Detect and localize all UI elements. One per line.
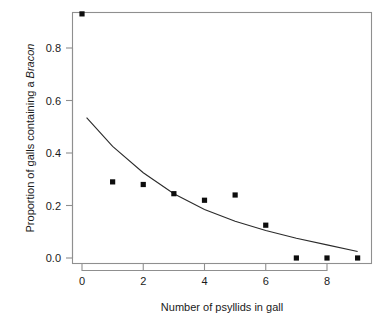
x-tick-label: 6 xyxy=(263,275,269,287)
data-point xyxy=(324,255,329,260)
y-tick-label: 0.2 xyxy=(46,200,61,212)
y-tick-label: 0.0 xyxy=(46,252,61,264)
data-point xyxy=(110,179,115,184)
y-tick-label: 0.8 xyxy=(46,42,61,54)
x-axis-title: Number of psyllids in gall xyxy=(161,301,283,313)
y-tick-label: 0.6 xyxy=(46,95,61,107)
x-tick-label: 2 xyxy=(140,275,146,287)
x-tick-label: 4 xyxy=(201,275,207,287)
y-axis-title-plain: Proportion of galls containing a xyxy=(24,78,36,232)
y-axis-title-italic-genus: Bracon xyxy=(24,44,36,79)
y-axis-title: Proportion of galls containing a Bracon xyxy=(24,44,36,233)
data-point xyxy=(141,182,146,187)
data-point xyxy=(355,255,360,260)
data-point xyxy=(294,255,299,260)
data-point xyxy=(233,192,238,197)
data-point xyxy=(171,191,176,196)
x-tick-label: 8 xyxy=(324,275,330,287)
x-tick-label: 0 xyxy=(79,275,85,287)
data-point xyxy=(79,11,84,16)
data-point xyxy=(263,223,268,228)
y-tick-label: 0.4 xyxy=(46,147,61,159)
data-point xyxy=(202,198,207,203)
chart-figure: 0.00.20.40.60.8 02468 Number of psyllids… xyxy=(0,0,388,326)
scatter-plot: 0.00.20.40.60.8 02468 Number of psyllids… xyxy=(0,0,388,326)
